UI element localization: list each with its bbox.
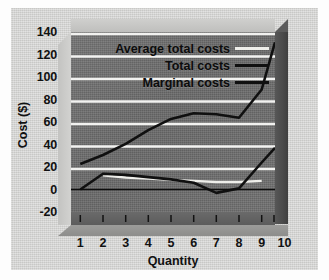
x-tick-1: 1 [70, 236, 90, 250]
x-tick-3: 3 [116, 236, 136, 250]
plot-area: Average total costs Total costs Marginal… [71, 32, 275, 212]
plot-floor [71, 212, 275, 225]
x-tick-10: 10 [275, 236, 295, 250]
plot-floor-front [58, 225, 288, 236]
line-swatch-dark-icon [235, 64, 269, 67]
x-tick-8: 8 [229, 236, 249, 250]
series-marginal-costs [80, 148, 275, 193]
x-axis: 1 2 3 4 5 6 7 8 9 10 [58, 236, 293, 254]
y-tick-140: 140 [15, 26, 57, 38]
line-swatch-dark-icon [235, 81, 269, 84]
plot-right-wall [275, 32, 288, 224]
y-tick-120: 120 [15, 49, 57, 61]
chart-figure: 140 120 100 80 60 40 20 0 -20 Cost ($) [11, 8, 318, 270]
y-tick-0: 0 [15, 184, 57, 196]
x-tick-6: 6 [184, 236, 204, 250]
x-tick-5: 5 [161, 236, 181, 250]
y-axis-title: Cost ($) [16, 80, 30, 170]
legend-label-average-total-costs: Average total costs [115, 42, 230, 56]
plot-left-wall [58, 32, 71, 225]
plot-top-cap [71, 19, 275, 32]
legend-label-total-costs: Total costs [165, 59, 230, 73]
x-tick-9: 9 [252, 236, 272, 250]
line-swatch-light-icon [235, 47, 269, 50]
legend-label-marginal-costs: Marginal costs [142, 76, 230, 90]
legend-item-average-total-costs[interactable]: Average total costs [77, 40, 269, 57]
x-tick-7: 7 [206, 236, 226, 250]
y-tick-neg20: -20 [15, 206, 57, 218]
chart-legend: Average total costs Total costs Marginal… [77, 40, 269, 91]
x-tick-marks [71, 213, 275, 226]
x-tick-2: 2 [93, 236, 113, 250]
x-axis-title: Quantity [71, 254, 275, 268]
legend-item-total-costs[interactable]: Total costs [77, 57, 269, 74]
x-tick-4: 4 [138, 236, 158, 250]
legend-item-marginal-costs[interactable]: Marginal costs [77, 74, 269, 91]
